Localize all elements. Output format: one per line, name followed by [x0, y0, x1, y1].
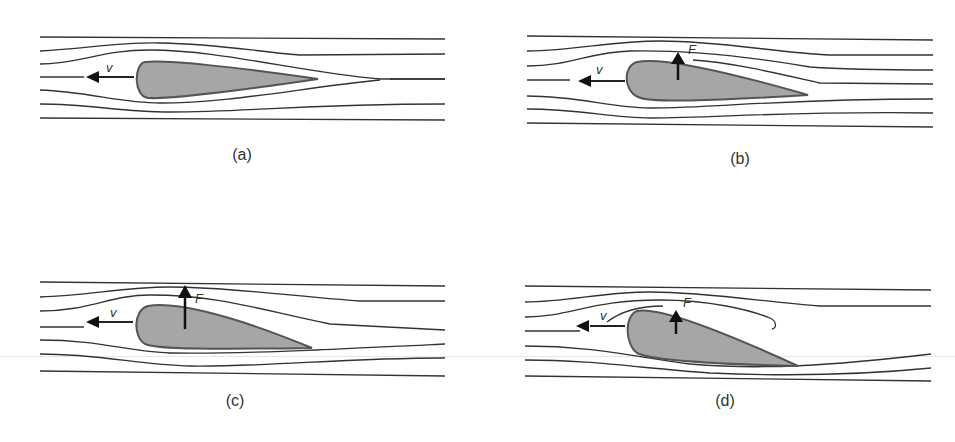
velocity-label-d: v: [600, 308, 608, 323]
panel-d: v F (d): [480, 240, 955, 442]
caption-a: (a): [212, 146, 272, 164]
velocity-label-b: v: [596, 62, 604, 77]
panel-b: v F (b): [480, 0, 955, 200]
velocity-arrow-c: [86, 316, 99, 328]
force-label-b: F: [688, 42, 697, 57]
force-arrow-b: [671, 52, 685, 64]
velocity-arrow-b: [578, 75, 591, 87]
panel-a: v (a): [0, 0, 480, 200]
streamline-diagram-c: v F: [0, 240, 480, 442]
caption-b: (b): [710, 150, 770, 168]
velocity-arrow-a: [86, 71, 99, 83]
streamline-diagram-a: v: [0, 0, 480, 200]
caption-d: (d): [695, 392, 755, 410]
velocity-label-a: v: [106, 60, 114, 75]
streamline-diagram-d: v F: [480, 240, 955, 442]
airfoil-c: [136, 305, 312, 349]
force-label-c: F: [195, 291, 204, 306]
streamline-diagram-b: v F: [480, 0, 955, 200]
force-label-d: F: [683, 295, 692, 310]
velocity-arrow-d: [576, 320, 589, 332]
velocity-label-c: v: [110, 305, 118, 320]
caption-c: (c): [205, 392, 265, 410]
panel-c: v F (c): [0, 240, 480, 442]
airfoil-b: [627, 61, 808, 101]
